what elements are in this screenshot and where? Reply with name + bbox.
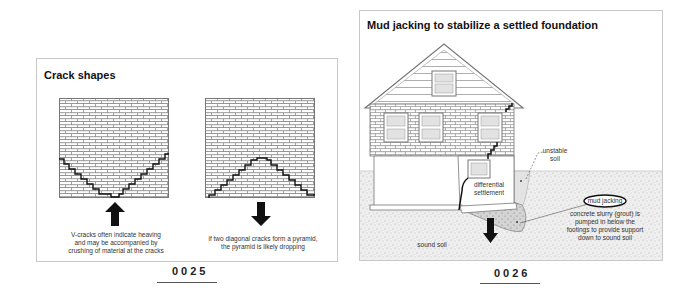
figure-number-rule xyxy=(480,283,540,284)
crack-shapes-title: Crack shapes xyxy=(44,69,116,81)
unstable-soil-label: unstable soil xyxy=(538,147,572,163)
v-crack-caption: V-cracks often indicate heaving and may … xyxy=(55,231,177,255)
figure-number-0026: 0026 xyxy=(494,267,530,279)
pyramid-crack-caption: if two diagonal cracks form a pyramid, t… xyxy=(199,235,327,251)
mud-jacking-label: mud jacking xyxy=(584,197,626,205)
figure-number-0025: 0025 xyxy=(172,265,208,277)
sound-soil-label: sound soil xyxy=(412,241,452,249)
figure-number-rule xyxy=(157,282,217,283)
pyramid-crack-wall xyxy=(205,98,315,198)
mud-jacking-panel: Mud jacking to stabilize a settled found… xyxy=(359,10,663,261)
arrow-up-icon xyxy=(105,202,125,226)
grout-note: concrete slurry (grout) is pumped in bel… xyxy=(557,210,653,242)
arrow-down-icon xyxy=(251,202,271,226)
differential-settlement-label: differential settlement xyxy=(467,181,511,197)
crack-shapes-panel: Crack shapes V-cracks often indicate hea… xyxy=(36,58,338,262)
v-crack-wall xyxy=(59,98,169,198)
